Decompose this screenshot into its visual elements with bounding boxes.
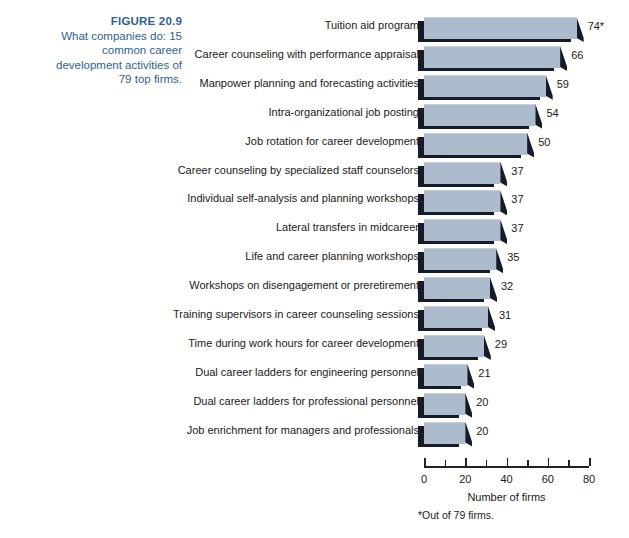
x-axis-tick-label: 0 (404, 473, 444, 485)
x-axis: 020406080 (0, 0, 629, 538)
x-axis-minor-tick (486, 460, 488, 466)
footnote: *Out of 79 firms. (418, 509, 494, 521)
x-axis-major-tick (548, 458, 550, 466)
x-axis-major-tick (465, 458, 467, 466)
x-axis-tick-label: 40 (487, 473, 527, 485)
x-axis-tick-label: 20 (445, 473, 485, 485)
x-axis-minor-tick (568, 460, 570, 466)
x-axis-line (424, 466, 589, 468)
x-axis-tick-label: 60 (528, 473, 568, 485)
x-axis-minor-tick (445, 460, 447, 466)
x-axis-major-tick (589, 458, 591, 466)
x-axis-minor-tick (527, 460, 529, 466)
x-axis-major-tick (507, 458, 509, 466)
x-axis-major-tick (424, 458, 426, 466)
x-axis-tick-label: 80 (569, 473, 609, 485)
x-axis-title: Number of firms (424, 491, 589, 503)
